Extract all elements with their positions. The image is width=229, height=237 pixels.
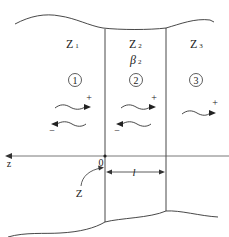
region-1-number: 1 xyxy=(73,75,78,86)
region-1-impedance: Z1 xyxy=(66,37,79,51)
diagram-canvas: Z1 Z2 β2 Z3 1 2 3 + + + − − z 0 l Z xyxy=(0,0,229,237)
backward-sign-region-1: − xyxy=(49,125,55,136)
region-3-number: 3 xyxy=(194,75,199,86)
region-2-impedance: Z2 xyxy=(129,37,142,51)
interface-label: Z xyxy=(76,187,83,199)
forward-arrow-icon xyxy=(84,104,91,110)
length-arrow-right-icon xyxy=(159,170,165,175)
top-boundary xyxy=(15,15,214,30)
forward-sign-region-3: + xyxy=(212,97,218,108)
length-label: l xyxy=(132,166,135,178)
backward-sign-region-2: − xyxy=(114,125,120,136)
region-2-number: 2 xyxy=(134,75,139,86)
origin-label: 0 xyxy=(99,157,104,168)
z-axis-label: z xyxy=(7,158,12,169)
length-arrow-left-icon xyxy=(106,170,112,175)
forward-wave-region-1 xyxy=(55,105,85,109)
forward-arrow-icon xyxy=(149,104,156,110)
origin-dot xyxy=(103,154,106,157)
interface-pointer xyxy=(81,168,101,186)
forward-sign-region-1: + xyxy=(86,92,92,103)
backward-wave-region-2 xyxy=(122,122,151,127)
bottom-boundary xyxy=(8,211,218,237)
forward-wave-region-3 xyxy=(182,111,210,115)
forward-arrow-icon xyxy=(209,110,216,116)
region-2-propagation-constant: β2 xyxy=(129,53,142,67)
backward-wave-region-1 xyxy=(57,122,86,127)
region-3-impedance: Z3 xyxy=(190,37,203,51)
forward-wave-region-2 xyxy=(121,105,150,109)
forward-sign-region-2: + xyxy=(151,92,157,103)
